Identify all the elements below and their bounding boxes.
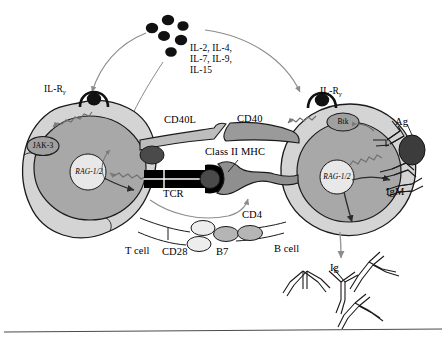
baseline-rule [4, 329, 442, 332]
b7-right [238, 226, 263, 241]
cytokine-dots [146, 15, 189, 57]
cd4-label: CD4 [242, 209, 262, 220]
cd40-label: CD40 [237, 113, 263, 124]
cd28-b7-complex [138, 218, 286, 252]
t-cell [23, 92, 156, 238]
jak3-label: JAK-3 [27, 142, 59, 150]
tcr-label: TCR [163, 188, 184, 199]
cd28-lower [187, 237, 211, 252]
b-cell-label: B cell [274, 243, 299, 254]
b-cell-rag-label: RAG-1/2 [316, 173, 358, 181]
cytokine-label: IL-2, IL-4, IL-7, IL-9, IL-15 [190, 43, 232, 75]
b-cell-il-receptor-label: IL-Rγ [320, 86, 342, 97]
class-ii-mhc-label: Class II MHC [205, 146, 265, 157]
cd4-pointer [150, 199, 248, 218]
cd40-arm [224, 122, 299, 143]
antigen-blob [399, 135, 425, 165]
b7-left [214, 227, 239, 242]
ig-label: Ig [330, 262, 339, 273]
b7-label: B7 [216, 246, 228, 257]
secreted-antibodies [283, 252, 399, 329]
t-cell-label: T cell [125, 245, 150, 256]
antigen-label: Ag [395, 116, 408, 127]
btk-label: Btk [331, 118, 355, 126]
cd40l-label: CD40L [164, 114, 196, 125]
immunology-diagram: IL-2, IL-4, IL-7, IL-9, IL-15 IL-Rγ IL-R… [0, 0, 446, 339]
igm-label: IgM [386, 186, 404, 197]
peptide [200, 170, 220, 189]
t-cell-il-receptor-label: IL-Rγ [44, 84, 66, 95]
cd28-label: CD28 [162, 246, 188, 257]
cd28-upper [191, 221, 215, 236]
t-cell-rag-label: RAG-1/2 [68, 168, 110, 176]
